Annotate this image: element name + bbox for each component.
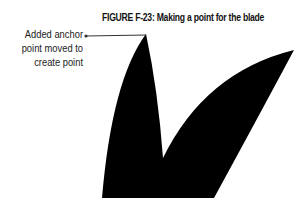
blade-illustration xyxy=(0,0,307,220)
leader-dot-icon xyxy=(84,34,87,37)
leader-line xyxy=(86,35,146,36)
blade-shape xyxy=(102,34,294,198)
